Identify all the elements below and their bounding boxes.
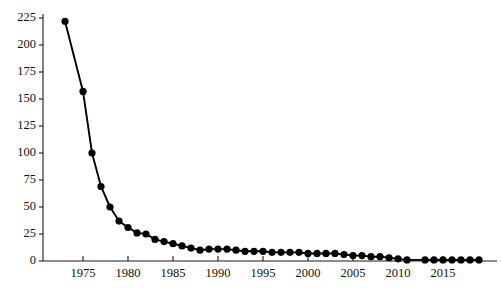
x-tick-label: 2015 bbox=[431, 266, 456, 280]
x-tick-label: 1980 bbox=[116, 266, 141, 280]
x-tick-label: 1975 bbox=[71, 266, 96, 280]
data-point bbox=[286, 249, 293, 256]
y-tick-label: 125 bbox=[17, 118, 36, 132]
data-point bbox=[475, 256, 482, 263]
data-point bbox=[241, 248, 248, 255]
data-point bbox=[295, 249, 302, 256]
x-tick-label: 2005 bbox=[341, 266, 366, 280]
x-tick-label: 2010 bbox=[386, 266, 411, 280]
line-chart: 0255075100125150175200225 19751980198519… bbox=[0, 0, 501, 288]
data-point bbox=[196, 247, 203, 254]
data-point bbox=[322, 250, 329, 257]
data-point bbox=[205, 246, 212, 253]
y-tick-label: 200 bbox=[17, 37, 36, 51]
data-point bbox=[367, 253, 374, 260]
data-point bbox=[151, 236, 158, 243]
data-point bbox=[313, 250, 320, 257]
y-axis: 0255075100125150175200225 bbox=[17, 10, 43, 267]
data-point bbox=[277, 249, 284, 256]
data-point bbox=[142, 230, 149, 237]
plot-area bbox=[61, 18, 482, 264]
data-point bbox=[394, 255, 401, 262]
y-tick-label: 25 bbox=[24, 226, 37, 240]
data-point bbox=[160, 238, 167, 245]
x-tick-labels: 197519801985199019952000200520102015 bbox=[71, 266, 456, 280]
data-point bbox=[340, 251, 347, 258]
data-point bbox=[439, 256, 446, 263]
data-point bbox=[169, 240, 176, 247]
y-tick-label: 0 bbox=[30, 253, 36, 267]
data-point bbox=[250, 248, 257, 255]
data-point bbox=[403, 256, 410, 263]
y-tick-label: 150 bbox=[17, 91, 36, 105]
data-point bbox=[376, 253, 383, 260]
data-point bbox=[88, 149, 95, 156]
y-tick-label: 50 bbox=[24, 199, 37, 213]
x-tick-label: 1995 bbox=[251, 266, 276, 280]
y-tick-label: 75 bbox=[24, 172, 37, 186]
x-tick-label: 1985 bbox=[161, 266, 186, 280]
series-markers bbox=[61, 18, 482, 264]
data-point bbox=[331, 250, 338, 257]
data-point bbox=[304, 250, 311, 257]
data-point bbox=[61, 18, 68, 25]
data-point bbox=[430, 256, 437, 263]
data-point bbox=[358, 252, 365, 259]
data-point bbox=[97, 183, 104, 190]
data-point bbox=[106, 203, 113, 210]
y-tick-label: 100 bbox=[17, 145, 36, 159]
data-point bbox=[385, 254, 392, 261]
x-tick-label: 2000 bbox=[296, 266, 321, 280]
data-point bbox=[259, 248, 266, 255]
data-point bbox=[79, 88, 86, 95]
data-point bbox=[214, 246, 221, 253]
y-tick-label: 225 bbox=[17, 10, 36, 24]
data-point bbox=[187, 244, 194, 251]
chart-container: 0255075100125150175200225 19751980198519… bbox=[0, 0, 501, 288]
data-point bbox=[457, 256, 464, 263]
data-point bbox=[466, 256, 473, 263]
y-tick-labels: 0255075100125150175200225 bbox=[17, 10, 36, 267]
data-point bbox=[223, 246, 230, 253]
data-point bbox=[448, 256, 455, 263]
y-tick-marks bbox=[39, 18, 43, 261]
x-tick-label: 1990 bbox=[206, 266, 231, 280]
data-point bbox=[349, 252, 356, 259]
data-point bbox=[115, 217, 122, 224]
data-point bbox=[232, 247, 239, 254]
data-point bbox=[124, 224, 131, 231]
y-tick-label: 175 bbox=[17, 64, 36, 78]
data-point bbox=[421, 256, 428, 263]
data-point bbox=[178, 242, 185, 249]
data-point bbox=[268, 249, 275, 256]
data-point bbox=[133, 229, 140, 236]
